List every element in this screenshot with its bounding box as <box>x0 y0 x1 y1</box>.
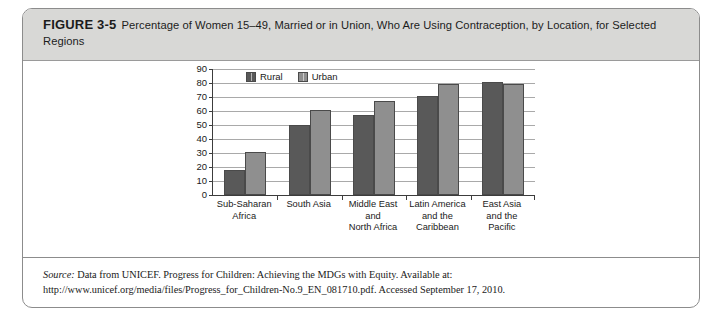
figure-caption: FIGURE 3-5Percentage of Women 15–49, Mar… <box>43 17 681 49</box>
x-axis-label: Middle EastandNorth Africa <box>341 199 405 234</box>
bar-group <box>342 69 406 195</box>
bar-pair <box>213 69 277 195</box>
chart-legend: RuralUrban <box>246 71 338 82</box>
y-tick-label: 20 <box>196 162 207 172</box>
x-axis-label-line: and the <box>406 211 468 223</box>
bar-group <box>277 69 341 195</box>
bar-pair <box>342 69 406 195</box>
x-axis-labels: Sub-SaharanAfricaSouth AsiaMiddle Eastan… <box>212 199 534 234</box>
legend-swatch-icon <box>246 72 256 82</box>
bar-rural <box>482 82 503 195</box>
bar-group <box>213 69 277 195</box>
x-axis-label-line: East Asia <box>471 199 533 211</box>
bar-urban <box>310 110 331 195</box>
legend-item-rural: Rural <box>246 71 283 82</box>
chart-area: 0102030405060708090 Sub-SaharanAfricaSou… <box>23 61 699 257</box>
figure-header-band: FIGURE 3-5Percentage of Women 15–49, Mar… <box>23 9 699 61</box>
y-tick-label: 60 <box>196 106 207 116</box>
y-tick-label: 70 <box>196 92 207 102</box>
x-axis-label-line: and <box>342 211 404 223</box>
x-axis-label-line: Sub-Saharan <box>213 199 275 211</box>
bar-pair <box>471 69 535 195</box>
legend-item-urban: Urban <box>298 71 338 82</box>
bar-rural <box>289 125 310 195</box>
bar-urban <box>503 84 524 195</box>
bar-pair <box>406 69 470 195</box>
x-axis-label: South Asia <box>276 199 340 234</box>
x-axis-label: Sub-SaharanAfrica <box>212 199 276 234</box>
x-axis-label: East Asiaand thePacific <box>470 199 534 234</box>
legend-swatch-icon <box>298 72 308 82</box>
x-axis-label-line: Middle East <box>342 199 404 211</box>
y-tick-label: 80 <box>196 78 207 88</box>
legend-label: Rural <box>260 71 283 82</box>
bar-groups <box>213 69 535 195</box>
x-axis-label-line: Caribbean <box>406 222 468 234</box>
y-axis-labels: 0102030405060708090 <box>183 69 207 195</box>
source-note: Source: Data from UNICEF. Progress for C… <box>23 258 699 308</box>
x-axis-label-line: North Africa <box>342 222 404 234</box>
x-axis-label-line: and the <box>471 211 533 223</box>
x-axis-label: Latin Americaand theCaribbean <box>405 199 469 234</box>
bar-rural <box>417 96 438 195</box>
x-axis-label-line: Pacific <box>471 222 533 234</box>
x-tick-mark <box>534 196 535 200</box>
x-axis-label-line: South Asia <box>277 199 339 211</box>
plot-frame <box>212 69 535 196</box>
source-text: Data from UNICEF. Progress for Children:… <box>43 269 505 295</box>
y-tick-mark <box>209 195 213 196</box>
figure-number-label: FIGURE 3-5 <box>43 17 117 32</box>
y-tick-label: 90 <box>196 64 207 74</box>
bar-urban <box>438 84 459 195</box>
bar-group <box>406 69 470 195</box>
bar-urban <box>374 101 395 195</box>
y-tick-label: 40 <box>196 134 207 144</box>
figure-container: FIGURE 3-5Percentage of Women 15–49, Mar… <box>22 8 700 308</box>
y-tick-label: 50 <box>196 120 207 130</box>
legend-label: Urban <box>312 71 338 82</box>
bar-rural <box>353 115 374 195</box>
source-label: Source: <box>43 269 75 280</box>
x-axis-label-line: Latin America <box>406 199 468 211</box>
bar-group <box>471 69 535 195</box>
figure-caption-text: Percentage of Women 15–49, Married or in… <box>43 19 656 47</box>
y-tick-label: 30 <box>196 148 207 158</box>
x-axis-label-line: Africa <box>213 211 275 223</box>
y-tick-label: 10 <box>196 176 207 186</box>
bar-urban <box>245 152 266 195</box>
bar-rural <box>224 170 245 195</box>
y-tick-label: 0 <box>202 190 207 200</box>
plot-wrapper: 0102030405060708090 Sub-SaharanAfricaSou… <box>183 69 543 251</box>
bar-pair <box>277 69 341 195</box>
